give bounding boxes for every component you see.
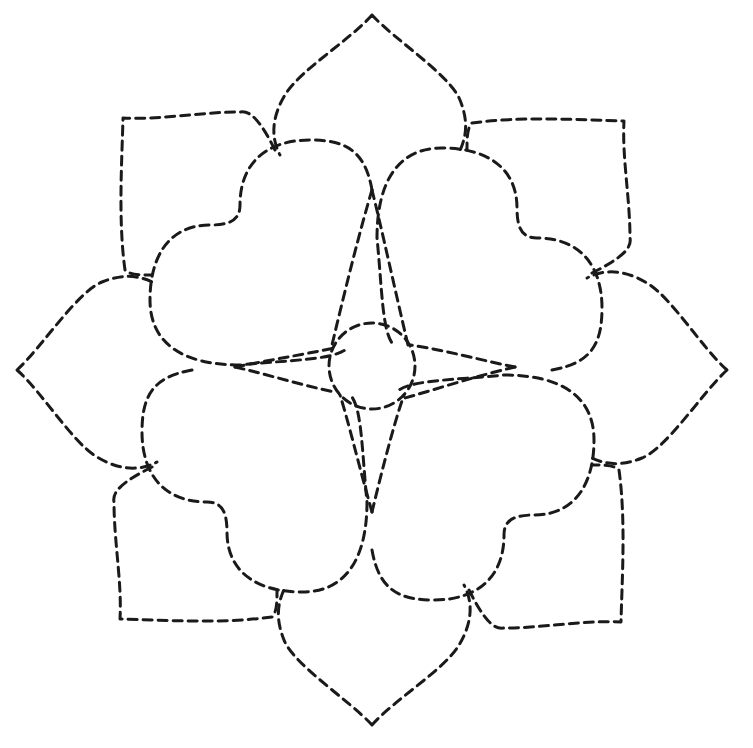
heart-petal (150, 140, 372, 365)
stitch-pattern (0, 0, 753, 748)
outer-point-petal (278, 585, 470, 725)
corner-petal (467, 119, 630, 273)
heart-petal (377, 148, 602, 370)
ray (372, 190, 408, 345)
ray (340, 395, 372, 512)
heart-petal (372, 375, 594, 600)
outer-point-petal (274, 15, 466, 155)
heart-petal (142, 370, 367, 592)
center-circle (329, 323, 415, 409)
corner-petal (114, 467, 277, 621)
corner-petal (469, 465, 623, 628)
outer-point-petal (17, 276, 157, 468)
ray (235, 367, 335, 392)
corner-petal (121, 112, 275, 275)
ray (332, 190, 372, 345)
ray (372, 395, 404, 512)
outer-point-petal (587, 272, 727, 464)
ray (410, 345, 515, 367)
